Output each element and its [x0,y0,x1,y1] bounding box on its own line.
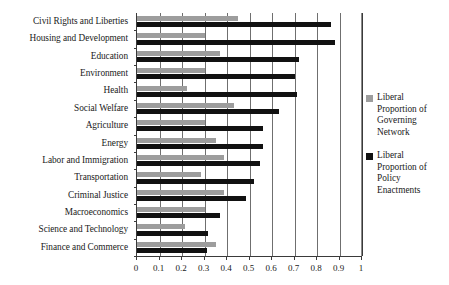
bar-group [137,187,361,204]
x-axis-tick-label: 0.4 [220,261,231,275]
category-label: Health [0,82,132,99]
x-axis-tick [249,256,250,260]
bar [137,213,220,218]
category-label: Transportation [0,169,132,186]
category-axis-labels: Civil Rights and LibertiesHousing and De… [0,13,132,256]
x-axis-tick [316,256,317,260]
bar [137,103,234,108]
bar [137,33,205,38]
x-axis-tick-label: 0.2 [175,261,186,275]
bar-group [137,204,361,221]
x-axis-tick [181,256,182,260]
bar-group [137,221,361,238]
x-axis-tick-label: 0.7 [288,261,299,275]
x-axis-tick-labels: 00.10.20.30.40.50.60.70.80.91 [136,261,361,275]
x-axis-tick-label: 0.9 [333,261,344,275]
x-axis-tick [294,256,295,260]
bar [137,92,297,97]
bar [137,120,205,125]
bar [137,161,260,166]
x-axis-tick-label: 0.5 [243,261,254,275]
bar [137,172,201,177]
x-axis-tick-label: 1 [359,261,364,275]
bar [137,224,185,229]
category-label: Finance and Commerce [0,239,132,256]
bar [137,207,205,212]
bar-group [137,135,361,152]
bar-group [137,13,361,30]
bar [137,144,263,149]
bar [137,126,263,131]
bar-group [137,169,361,186]
bar-group [137,65,361,82]
gray-square-icon [366,95,373,102]
category-label: Civil Rights and Liberties [0,13,132,30]
bar [137,242,216,247]
plot-area [136,13,361,256]
legend-label: Liberal Proportion of Policy Enactments [377,150,443,196]
legend-label: Liberal Proportion of Governing Network [377,92,443,138]
x-axis-tick [226,256,227,260]
bar [137,40,335,45]
bar-group [137,100,361,117]
bar-groups [137,13,361,256]
bar-chart: Civil Rights and LibertiesHousing and De… [0,0,449,285]
black-square-icon [366,153,373,160]
bar [137,22,331,27]
bar [137,109,279,114]
bar [137,190,224,195]
category-label: Energy [0,135,132,152]
category-label: Education [0,48,132,65]
x-axis-tick [339,256,340,260]
x-axis-tick-marks [136,256,361,260]
category-label: Labor and Immigration [0,152,132,169]
x-axis-tick [361,256,362,260]
x-axis-tick-label: 0.8 [310,261,321,275]
category-label: Agriculture [0,117,132,134]
x-axis-tick-label: 0.1 [153,261,164,275]
chart-legend: Liberal Proportion of Governing NetworkL… [366,92,446,208]
x-axis-tick [271,256,272,260]
x-axis-tick-label: 0 [134,261,139,275]
bar [137,16,238,21]
bar [137,179,254,184]
legend-divider [361,13,362,256]
x-axis-tick [136,256,137,260]
gridline [362,13,363,256]
bar [137,74,295,79]
category-label: Social Welfare [0,100,132,117]
category-label: Science and Technology [0,221,132,238]
bar-group [137,239,361,256]
category-label: Environment [0,65,132,82]
bar-group [137,48,361,65]
bar-group [137,30,361,47]
bar [137,155,224,160]
bar [137,248,207,253]
x-axis-tick-label: 0.6 [265,261,276,275]
x-axis-tick [159,256,160,260]
x-axis-tick-label: 0.3 [198,261,209,275]
bar [137,51,220,56]
x-axis-tick [204,256,205,260]
bar [137,57,299,62]
bar-group [137,117,361,134]
bar [137,86,187,91]
bar-group [137,82,361,99]
bar [137,196,246,201]
category-label: Criminal Justice [0,187,132,204]
legend-item: Liberal Proportion of Governing Network [366,92,446,138]
category-label: Housing and Development [0,30,132,47]
category-label: Macroeconomics [0,204,132,221]
legend-item: Liberal Proportion of Policy Enactments [366,150,446,196]
bar [137,138,216,143]
bar-group [137,152,361,169]
bar [137,231,208,236]
bar [137,68,205,73]
